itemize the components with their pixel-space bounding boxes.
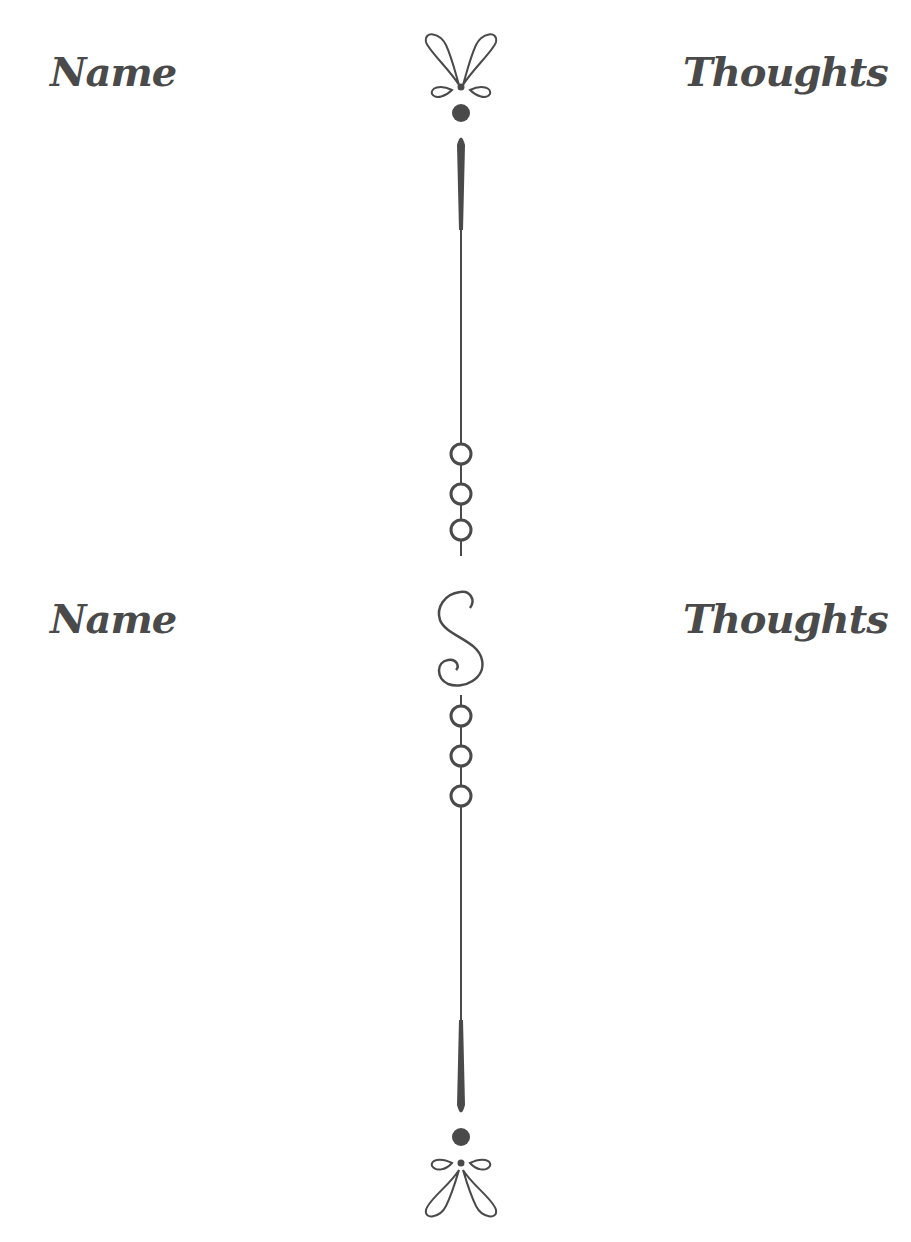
butterfly-bottom-icon <box>426 1160 496 1217</box>
s-swirl-icon <box>439 592 482 686</box>
bead-icon <box>451 706 471 726</box>
bead-icon <box>451 444 471 464</box>
bead-icon <box>451 786 471 806</box>
bead-icon <box>451 484 471 504</box>
bead-icon <box>451 746 471 766</box>
bead-icon <box>451 520 471 540</box>
center-divider-ornament <box>0 0 911 1242</box>
